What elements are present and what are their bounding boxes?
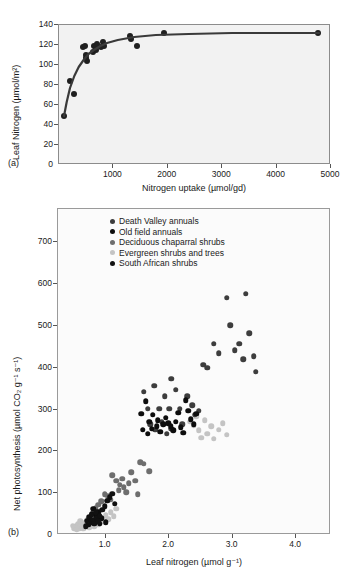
panel-b-y-tick-label: 600 xyxy=(26,279,52,288)
panel-b-y-tick-label: 500 xyxy=(26,321,52,330)
legend-marker-icon xyxy=(110,219,115,224)
panel-a-y-tick-label: 60 xyxy=(28,100,53,109)
panel-b-y-axis-title: Net photosynthesis (µmol CO₂ g⁻¹ s⁻¹) xyxy=(13,357,23,511)
panel-b-x-tick-label: 3.0 xyxy=(226,540,238,549)
panel-b-y-tick xyxy=(53,367,57,368)
panel-b-point xyxy=(97,513,103,519)
panel-a-y-tick-label: 80 xyxy=(28,80,53,89)
panel-b-y-tick-label: 400 xyxy=(26,363,52,372)
panel-a-x-tick-label: 3000 xyxy=(212,170,231,179)
panel-b-point xyxy=(224,295,230,301)
panel-b-point xyxy=(181,430,187,436)
panel-b-x-tick-label: 4.0 xyxy=(289,540,301,549)
panel-b-point xyxy=(186,408,192,414)
legend-item-1[interactable]: Old field annuals xyxy=(110,227,225,238)
panel-b-point xyxy=(123,489,129,495)
legend-item-4[interactable]: South African shrubs xyxy=(110,258,225,269)
panel-b-point xyxy=(103,520,109,526)
panel-b-y-tick xyxy=(53,283,57,284)
panel-a-fit-curve xyxy=(58,24,330,164)
panel-a-x-axis-title: Nitrogen uptake (µmol/gd) xyxy=(142,184,246,194)
panel-b-point xyxy=(183,398,189,404)
panel-b-point xyxy=(132,478,138,484)
panel-b-point xyxy=(146,469,152,475)
panel-b: 0100200300400500600700 1.02.03.04.0 Deat… xyxy=(0,196,349,582)
panel-b-point xyxy=(196,428,202,434)
panel-b-point xyxy=(164,431,170,437)
panel-b-y-tick xyxy=(53,325,57,326)
panel-b-y-tick-label: 300 xyxy=(26,404,52,413)
panel-b-point xyxy=(216,427,222,433)
panel-a-x-tick xyxy=(112,164,113,168)
legend-label: Old field annuals xyxy=(119,228,182,237)
panel-b-point xyxy=(155,418,161,424)
panel-b-point xyxy=(169,376,175,382)
panel-b-point xyxy=(167,406,173,412)
panel-b-point xyxy=(209,423,215,429)
panel-b-point xyxy=(216,351,222,357)
panel-b-point xyxy=(232,347,238,353)
panel-b-x-tick xyxy=(168,534,169,538)
legend-item-2[interactable]: Deciduous chaparral shrubs xyxy=(110,237,225,248)
panel-b-y-tick xyxy=(53,409,57,410)
panel-b-point xyxy=(176,410,182,416)
panel-b-point xyxy=(151,383,157,389)
panel-b-point xyxy=(173,419,179,425)
legend-marker-icon xyxy=(110,261,115,266)
panel-b-y-tick-label: 700 xyxy=(26,237,52,246)
legend-label: Evergreen shrubs and trees xyxy=(119,249,224,258)
panel-b-point xyxy=(158,429,164,435)
legend-marker-icon xyxy=(110,240,115,245)
panel-b-point xyxy=(253,369,259,375)
panel-a-x-tick xyxy=(221,164,222,168)
panel-a-x-tick-label: 2000 xyxy=(157,170,176,179)
legend-marker-icon xyxy=(110,229,115,234)
panel-b-point xyxy=(228,322,234,328)
panel-b-point xyxy=(141,389,147,395)
panel-b-point xyxy=(120,476,126,482)
panel-a-x-tick xyxy=(276,164,277,168)
panel-a-label: (a) xyxy=(8,158,19,168)
panel-b-point xyxy=(83,524,89,530)
panel-a-y-tick-label: 100 xyxy=(28,60,53,69)
panel-b-y-tick-label: 200 xyxy=(26,446,52,455)
panel-b-point xyxy=(104,498,110,504)
legend-label: South African shrubs xyxy=(119,259,197,268)
panel-b-point xyxy=(141,461,147,467)
legend-label: Deciduous chaparral shrubs xyxy=(119,238,225,247)
panel-b-point xyxy=(143,398,149,404)
legend-item-0[interactable]: Death Valley annuals xyxy=(110,216,225,227)
panel-b-point xyxy=(191,422,197,428)
panel-b-point xyxy=(150,412,156,418)
panel-b-point xyxy=(243,291,249,297)
panel-b-point xyxy=(102,504,108,510)
panel-b-y-tick xyxy=(53,241,57,242)
panel-b-point xyxy=(145,431,151,437)
panel-b-point xyxy=(112,501,118,507)
panel-a-x-tick-label: 1000 xyxy=(103,170,122,179)
panel-b-x-tick-label: 2.0 xyxy=(162,540,174,549)
panel-b-point xyxy=(74,527,80,533)
panel-b-point xyxy=(173,387,179,393)
panel-a-x-tick-label: 4000 xyxy=(266,170,285,179)
panel-a-x-tick-label: 5000 xyxy=(321,170,340,179)
panel-b-point xyxy=(135,492,141,498)
panel-b-point xyxy=(202,418,208,424)
panel-b-point xyxy=(156,406,162,412)
panel-b-point xyxy=(146,419,152,425)
panel-b-point xyxy=(109,491,115,497)
panel-b-point xyxy=(111,514,117,520)
panel-b-x-tick xyxy=(105,534,106,538)
panel-b-point xyxy=(193,411,199,417)
panel-b-point xyxy=(220,420,226,426)
panel-b-point xyxy=(129,469,135,475)
panel-b-point xyxy=(251,354,257,360)
panel-a-y-tick-label: 20 xyxy=(28,140,53,149)
figure-container: 020406080100120140 10002000300040005000 … xyxy=(0,0,349,582)
panel-b-y-tick-label: 0 xyxy=(26,530,52,539)
panel-b-point xyxy=(126,480,132,486)
legend-label: Death Valley annuals xyxy=(119,217,199,226)
legend-item-3[interactable]: Evergreen shrubs and trees xyxy=(110,248,225,259)
panel-a-y-tick-label: 0 xyxy=(28,160,53,169)
panel-b-point xyxy=(96,519,102,525)
